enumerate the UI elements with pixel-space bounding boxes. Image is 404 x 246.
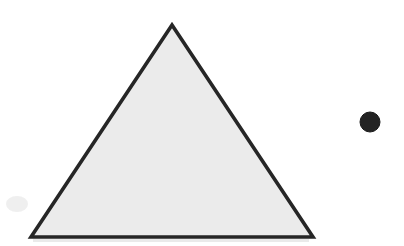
shape-canvas — [0, 0, 404, 246]
shapes-figure — [0, 0, 404, 246]
base-shadow-band-artifact — [33, 239, 309, 242]
scan-smudge-artifact — [6, 196, 28, 212]
circle-shape[interactable] — [360, 112, 380, 132]
